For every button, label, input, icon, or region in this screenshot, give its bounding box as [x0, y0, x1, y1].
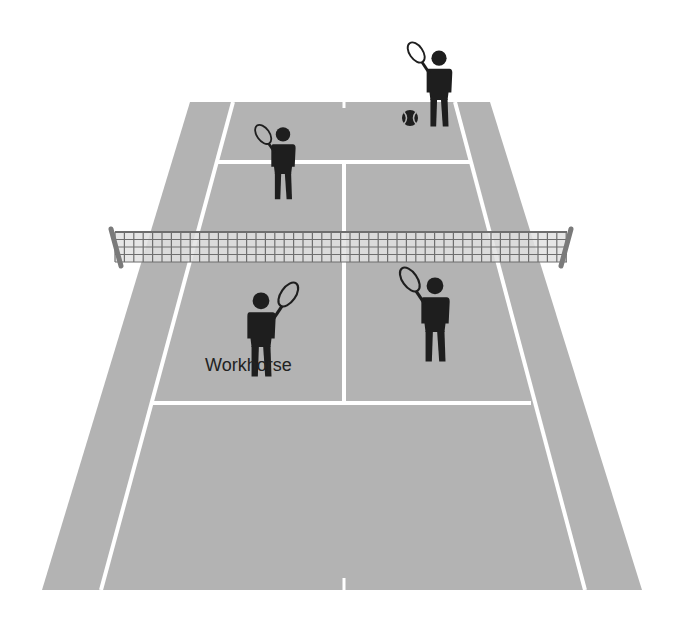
tennis-court-diagram [0, 0, 682, 628]
workhorse-label: Workhorse [205, 355, 292, 376]
tennis-ball [402, 110, 418, 126]
net [111, 229, 571, 266]
